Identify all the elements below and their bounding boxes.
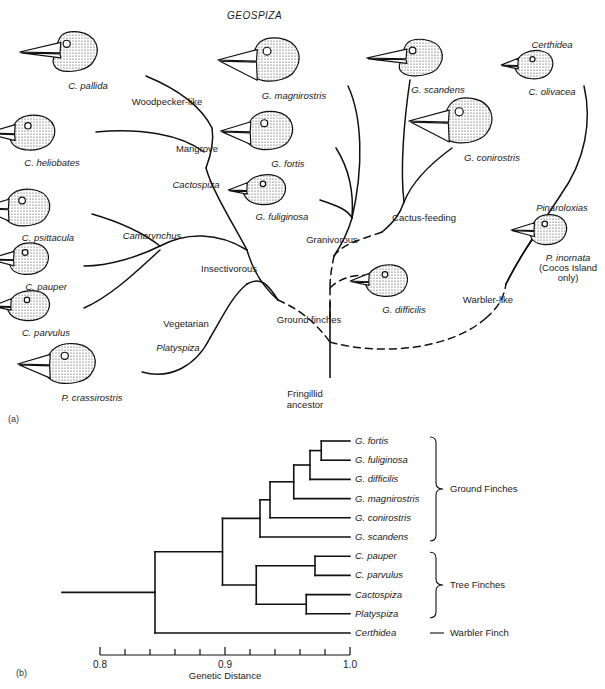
branch-conirostris: [404, 148, 452, 202]
dendrogram-group-label: Warbler Finch: [450, 627, 509, 638]
bird-label: G. difficilis: [382, 304, 425, 315]
finch-phylogeny-figure: GEOSPIZA: [0, 0, 605, 689]
bird-head-c-psittacula: [0, 186, 54, 230]
dendrogram-leaf-label: C. pauper: [355, 550, 397, 561]
branch-olivacea: [560, 86, 587, 196]
bird-label: C. pauper: [25, 281, 67, 292]
node-label: Insectivorous: [201, 263, 257, 274]
dendrogram: [0, 429, 605, 689]
node-label: Mangrove: [176, 143, 218, 154]
branch-parvulus: [84, 250, 160, 308]
bird-label: C. heliobates: [24, 157, 79, 168]
branch-root-to-warbler-dashed: [330, 318, 486, 349]
bird-label: G. magnirostris: [262, 90, 326, 101]
genus-label: Pinaroloxias: [536, 202, 588, 213]
bird-head-g-magnirostris: [216, 34, 304, 86]
bird-label: C. psittacula: [22, 232, 74, 243]
bird-head-p-inornata: [510, 212, 570, 248]
bird-head-p-crassirostris: [16, 340, 100, 388]
bird-label: C. pallida: [68, 80, 108, 91]
dendrogram-leaf-label: Platyspiza: [355, 608, 398, 619]
node-label: Vegetarian: [163, 318, 208, 329]
genus-label: Cactospiza: [173, 179, 220, 190]
bird-label: G. conirostris: [464, 152, 520, 163]
genus-label: Platyspiza: [156, 342, 199, 353]
root-label: ancestor: [287, 399, 323, 410]
dendrogram-leaf-label: G. fuliginosa: [355, 454, 408, 465]
node-label: Cactus-feeding: [392, 212, 456, 223]
panel-b-caption: (b): [16, 668, 27, 678]
genus-label: Camarynchus: [123, 230, 182, 241]
bird-label: G. fuliginosa: [256, 211, 309, 222]
bird-label: G. scandens: [411, 84, 464, 95]
dendrogram-group-label: Tree Finches: [450, 579, 505, 590]
bird-head-c-pallida: [18, 28, 102, 76]
bird-label: C. olivacea: [529, 86, 576, 97]
axis-title: Genetic Distance: [189, 670, 261, 681]
dendrogram-leaf-label: C. parvulus: [355, 569, 403, 580]
branch-magnirostris: [348, 86, 360, 218]
branch-platyspiza: [210, 284, 247, 338]
dendrogram-leaf-label: G. fortis: [355, 435, 388, 446]
axis-tick-label: 1.0: [343, 659, 357, 670]
node-label: Warbler-like: [463, 294, 513, 305]
branch-granivorous-dashed: [330, 256, 334, 288]
axis-tick-label: 0.9: [218, 659, 232, 670]
bird-head-g-scandens: [365, 36, 447, 80]
bird-label: P. crassirostris: [61, 392, 122, 403]
bird-head-g-fortis: [219, 108, 297, 154]
axis-tick-label: 0.8: [93, 659, 107, 670]
dendrogram-leaf-label: G. conirostris: [355, 512, 411, 523]
root-label: Fringillid: [287, 388, 322, 399]
node-label: Ground finches: [277, 314, 341, 325]
bird-label: G. fortis: [271, 158, 304, 169]
branch-fuliginosa: [320, 200, 352, 218]
bird-head-c-parvulus: [0, 288, 53, 324]
bird-head-c-heliobates: [0, 112, 59, 154]
bird-head-g-difficilis: [349, 262, 411, 300]
dendrogram-leaf-label: Certhidea: [355, 627, 396, 638]
bird-label-note: only): [558, 272, 579, 283]
bird-head-g-conirostris: [407, 94, 497, 148]
dendrogram-leaf-label: G. difficilis: [355, 473, 398, 484]
bird-head-c-olivacea: [500, 48, 556, 82]
dendrogram-group-label: Ground Finches: [450, 483, 518, 494]
dendrogram-leaf-label: Cactospiza: [355, 589, 402, 600]
dendrogram-leaf-label: G. magnirostris: [355, 493, 419, 504]
bird-label: C. parvulus: [22, 327, 70, 338]
genus-label: Certhidea: [531, 39, 572, 50]
node-label: Granivorous: [306, 234, 358, 245]
panel-a-caption: (a): [8, 414, 19, 424]
dendrogram-leaf-label: G. scandens: [355, 531, 408, 542]
bird-head-g-fuliginosa: [227, 172, 289, 208]
branch-pauper: [84, 246, 160, 266]
node-label: Woodpecker-like: [132, 96, 203, 107]
bird-head-c-pauper: [0, 240, 52, 278]
